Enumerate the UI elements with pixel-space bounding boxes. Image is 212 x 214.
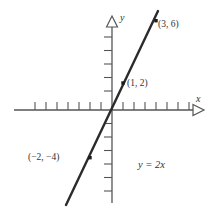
cartesian-line-graph: (3, 6) (1, 2) (−2, −4) y = 2x x y [0, 0, 212, 214]
y-axis-arrow-icon [107, 16, 118, 27]
point-label-minus2-minus4: (−2, −4) [28, 153, 59, 163]
x-axis-arrow-icon [193, 105, 204, 116]
graph-canvas [0, 0, 212, 214]
equation-label: y = 2x [138, 160, 165, 171]
point-marker-1-2 [121, 81, 124, 84]
x-axis-label: x [196, 94, 200, 104]
y-axis-label: y [120, 13, 124, 23]
point-label-3-6: (3, 6) [158, 20, 179, 30]
point-label-1-2: (1, 2) [127, 79, 148, 89]
point-marker-minus2-minus4 [88, 156, 91, 159]
